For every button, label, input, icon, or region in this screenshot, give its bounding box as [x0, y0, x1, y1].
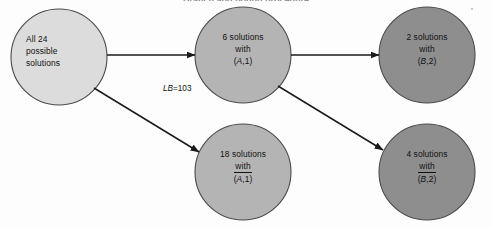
figure-canvas: [0, 0, 492, 227]
lower-bound-symbol: LB: [163, 84, 173, 93]
lower-bound-value: 103: [178, 84, 192, 93]
scan-speck: [471, 8, 473, 10]
all-solutions-node-circle: [11, 9, 107, 105]
edge-root-to-a1-complement: [94, 88, 199, 152]
a1-node-circle: [195, 7, 291, 103]
b2-node-circle: [379, 7, 475, 103]
branch-and-bound-figure: Branch and bound procedure All 24 possib…: [0, 0, 492, 227]
edge-a1-to-b2-complement: [278, 86, 383, 150]
lower-bound-label: LB=103: [163, 84, 191, 93]
a1-complement-node-circle: [195, 124, 291, 220]
b2-complement-node-circle: [379, 124, 475, 220]
